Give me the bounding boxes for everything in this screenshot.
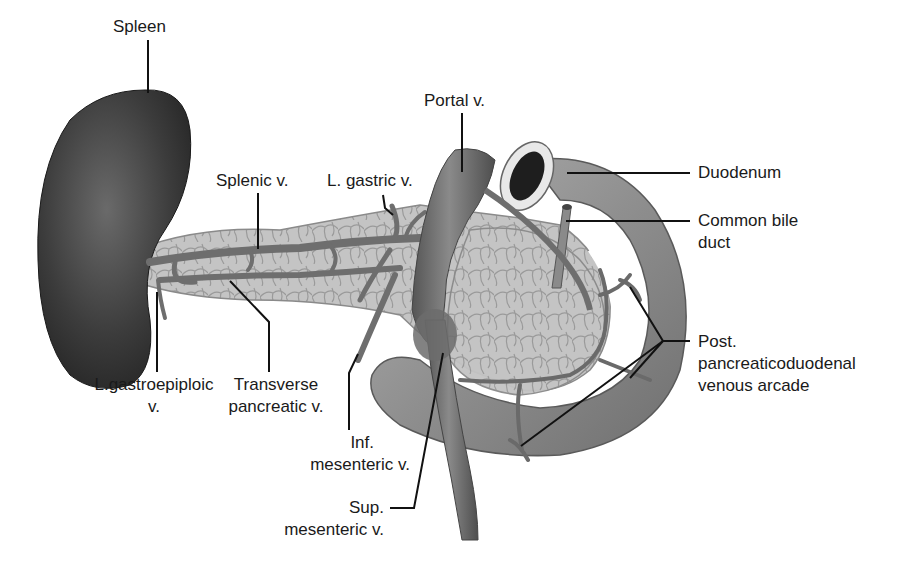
label-portal-v: Portal v.: [424, 90, 485, 112]
anatomy-illustration: [0, 0, 921, 574]
label-transverse-pancreatic-v: Transverse pancreatic v.: [214, 374, 338, 418]
label-splenic-v: Splenic v.: [216, 170, 288, 192]
label-l-gastroepiploic-v: L.gastroepiploic v.: [71, 374, 237, 418]
label-post-pancreaticoduodenal-arcade: Post. pancreaticoduodenal venous arcade: [698, 331, 856, 397]
label-common-bile-duct: Common bile duct: [698, 210, 798, 254]
label-l-gastric-v: L. gastric v.: [327, 170, 413, 192]
label-spleen: Spleen: [113, 16, 166, 38]
label-sup-mesenteric-v: Sup. mesenteric v.: [250, 497, 384, 541]
label-inf-mesenteric-v: Inf. mesenteric v.: [288, 432, 410, 476]
label-duodenum: Duodenum: [698, 162, 781, 184]
leader-inf-mesenteric-v: [349, 354, 358, 430]
